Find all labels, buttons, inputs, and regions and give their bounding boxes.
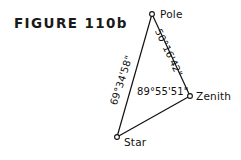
vertex-label-zenith: Zenith xyxy=(196,90,231,102)
vertex-marker-star xyxy=(115,135,120,140)
vertex-label-star: Star xyxy=(124,136,146,148)
vertex-label-pole: Pole xyxy=(160,8,183,20)
edge-star-zenith xyxy=(117,96,190,137)
figure-canvas: FIGURE 110b Pole Zenith Star 69°34'58" 5… xyxy=(0,0,241,160)
angle-label-zenith: 89°55'51" xyxy=(137,86,188,97)
vertex-marker-pole xyxy=(150,12,155,17)
